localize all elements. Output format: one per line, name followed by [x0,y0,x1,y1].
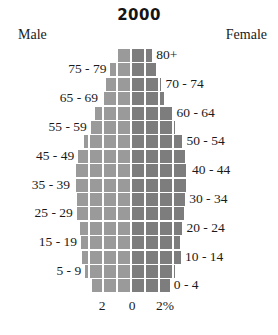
bar-female [132,236,180,249]
age-group-label: 60 - 64 [177,105,215,121]
bar-male [80,222,130,235]
pyramid-row: 65 - 69 [0,91,278,105]
bar-male [91,121,130,134]
bar-female [132,92,164,105]
age-group-label: 55 - 59 [49,119,87,135]
age-group-label: 0 - 4 [174,277,199,293]
bar-male [102,92,130,105]
population-pyramid-chart: 2000 Male Female 80+75 - 7970 - 7465 - 6… [0,0,278,335]
bar-female [132,251,181,264]
age-group-label: 65 - 69 [60,90,98,106]
age-group-label: 80+ [156,47,177,63]
age-group-label: 50 - 54 [186,133,224,149]
pyramid-row: 35 - 39 [0,178,278,192]
x-tick-left: 2 [99,298,106,314]
bar-male [106,78,130,91]
pyramid-row: 70 - 74 [0,77,278,91]
bar-male [77,207,130,220]
age-group-label: 5 - 9 [56,263,81,279]
pyramid-row: 45 - 49 [0,149,278,163]
pyramid-row: 0 - 4 [0,278,278,292]
bar-female [132,193,185,206]
age-group-label: 25 - 29 [35,205,73,221]
age-group-label: 20 - 24 [186,220,224,236]
pyramid-row: 50 - 54 [0,134,278,148]
pyramid-row: 25 - 29 [0,206,278,220]
bar-male [77,193,130,206]
bar-male [81,236,130,249]
bar-female [132,49,152,62]
bar-female [132,265,175,278]
bar-male [95,107,130,120]
bar-male [78,150,130,163]
pyramid-row: 80+ [0,48,278,62]
bar-female [132,279,170,292]
age-group-label: 15 - 19 [39,234,77,250]
x-tick-right: 2% [156,298,174,314]
bar-male [74,179,130,192]
pyramid-row: 20 - 24 [0,221,278,235]
age-group-label: 40 - 44 [192,162,230,178]
age-group-label: 70 - 74 [165,76,203,92]
bar-female [132,150,185,163]
pyramid-row: 40 - 44 [0,163,278,177]
pyramid-row: 5 - 9 [0,264,278,278]
bar-male [82,251,130,264]
bar-male [92,279,130,292]
bar-female [132,207,184,220]
bar-female [132,164,188,177]
pyramid-row: 55 - 59 [0,120,278,134]
bar-female [132,222,182,235]
bar-female [132,78,161,91]
bar-male [75,164,130,177]
bar-male [118,49,130,62]
bar-female [132,135,182,148]
bar-male [85,265,130,278]
bar-female [132,121,175,134]
pyramid-row: 15 - 19 [0,235,278,249]
age-group-label: 35 - 39 [32,177,70,193]
pyramid-row: 10 - 14 [0,250,278,264]
pyramid-row: 75 - 79 [0,62,278,76]
bar-female [132,107,173,120]
bar-male [110,63,130,76]
bar-female [132,63,156,76]
pyramid-row: 30 - 34 [0,192,278,206]
age-group-label: 10 - 14 [185,249,223,265]
pyramid-row: 60 - 64 [0,106,278,120]
plot-area: 80+75 - 7970 - 7465 - 6960 - 6455 - 5950… [0,48,278,296]
bar-female [132,179,187,192]
age-group-label: 30 - 34 [189,191,227,207]
x-tick-center: 0 [129,298,136,314]
age-group-label: 45 - 49 [36,148,74,164]
male-series-label: Male [18,27,47,43]
female-series-label: Female [226,27,267,43]
chart-title: 2000 [0,6,278,24]
x-axis: 2 0 2% [0,298,278,318]
age-group-label: 75 - 79 [68,61,106,77]
bar-male [84,135,130,148]
